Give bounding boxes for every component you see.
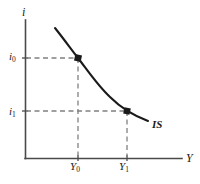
is-curve-label: IS xyxy=(152,119,162,130)
y-tick-label-i1: i1 xyxy=(9,106,16,119)
x-tick-label-y1-sub: 1 xyxy=(125,165,129,174)
is-curve-plot xyxy=(0,0,200,184)
curve-point-marker-1 xyxy=(123,107,131,115)
x-axis-label: Y xyxy=(186,152,193,164)
x-tick-label-y0: Y0 xyxy=(70,161,80,174)
guide-lines-group xyxy=(26,58,127,157)
x-tick-label-y0-sub: 0 xyxy=(76,165,80,174)
tick-marks-group xyxy=(22,58,127,161)
curve-point-marker-0 xyxy=(74,54,82,62)
is-curve-path xyxy=(55,28,148,121)
x-tick-label-y1: Y1 xyxy=(119,161,129,174)
y-tick-label-i0: i0 xyxy=(9,51,16,64)
is-curve-figure: i Y i0 i1 Y0 Y1 IS xyxy=(0,0,200,184)
y-tick-label-i1-sub: 1 xyxy=(12,110,16,119)
y-tick-label-i0-sub: 0 xyxy=(12,55,16,64)
y-axis-label: i xyxy=(22,6,25,18)
